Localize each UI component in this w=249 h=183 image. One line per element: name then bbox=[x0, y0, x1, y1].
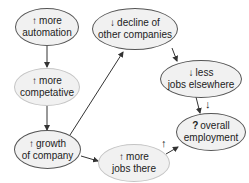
question-mark-icon: ? bbox=[192, 120, 198, 131]
up-arrow-icon: ↑ bbox=[119, 151, 124, 162]
node-label-line2: automation bbox=[22, 27, 71, 39]
node-label-line1: more bbox=[126, 151, 149, 162]
node-label-line2: employment bbox=[184, 132, 238, 144]
node-more-competative: ↑more competative bbox=[14, 68, 80, 106]
node-label-line2: competative bbox=[20, 87, 74, 99]
up-arrow-icon: ↑ bbox=[29, 138, 34, 149]
node-more-jobs-there: ↑more jobs there bbox=[98, 144, 170, 182]
node-decline-of-other-companies: ↓decline of other companies bbox=[92, 8, 178, 50]
node-label-line2: of company bbox=[22, 150, 74, 162]
node-growth-of-company: ↑growth of company bbox=[14, 130, 81, 169]
node-label-line1: more bbox=[39, 15, 62, 26]
edge-less-jobs-to-overall bbox=[196, 97, 200, 113]
node-label-line1: overall bbox=[200, 120, 229, 131]
edge-decline-to-less-jobs bbox=[172, 48, 177, 61]
edge-growth-to-more-jobs bbox=[81, 156, 98, 161]
node-label-line2: jobs elsewhere bbox=[168, 79, 235, 91]
up-arrow-icon: ↑ bbox=[32, 15, 37, 26]
node-label-line2: jobs there bbox=[112, 163, 156, 175]
down-arrow-icon: ↓ bbox=[205, 98, 211, 110]
down-arrow-icon: ↓ bbox=[110, 17, 115, 28]
causal-diagram: ↑more automation ↑more competative ↑grow… bbox=[0, 0, 249, 183]
down-arrow-icon: ↓ bbox=[189, 67, 194, 78]
up-arrow-icon: ↑ bbox=[32, 75, 37, 86]
node-label-line1: more bbox=[39, 75, 62, 86]
edge-more-jobs-to-overall bbox=[166, 147, 178, 154]
node-label-line2: other companies bbox=[98, 29, 172, 41]
node-label-line1: decline of bbox=[117, 17, 160, 28]
node-label-line1: growth bbox=[36, 138, 66, 149]
node-overall-employment: ?overall employment bbox=[176, 113, 246, 151]
up-arrow-icon: ↑ bbox=[161, 137, 167, 149]
node-label-line1: less bbox=[196, 67, 214, 78]
node-more-automation: ↑more automation bbox=[15, 8, 79, 46]
node-less-jobs-elsewhere: ↓less jobs elsewhere bbox=[160, 60, 242, 98]
